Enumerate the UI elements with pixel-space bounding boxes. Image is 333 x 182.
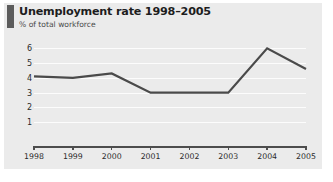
chart-figure: Unemployment rate 1998–2005 % of total w… <box>0 0 333 182</box>
chart-title: Unemployment rate 1998–2005 <box>19 5 211 18</box>
y-axis-tick-label: 4 <box>27 73 32 82</box>
x-axis-tick-label: 1999 <box>63 152 83 162</box>
series-line-unemployment-rate <box>34 48 306 92</box>
x-axis-line <box>34 146 306 148</box>
chart-header: Unemployment rate 1998–2005 % of total w… <box>0 4 318 38</box>
y-axis-tick-label: 3 <box>27 88 32 97</box>
x-axis-tick <box>266 146 267 150</box>
x-axis-tick-label: 2003 <box>218 152 238 162</box>
x-axis-tick-label: 2004 <box>257 152 277 162</box>
accent-bar <box>7 5 14 28</box>
chart-subtitle: % of total workforce <box>19 20 96 30</box>
x-axis-tick <box>33 146 34 150</box>
y-axis-labels: 123456 <box>18 41 32 137</box>
x-axis-tick-label: 2001 <box>141 152 161 162</box>
y-axis-tick-label: 1 <box>27 118 32 127</box>
y-axis-tick-label: 6 <box>27 44 32 53</box>
x-axis-tick-label: 1998 <box>24 152 44 162</box>
series-line-chart <box>34 41 306 137</box>
y-axis-tick-label: 2 <box>27 103 32 112</box>
x-axis-tick <box>111 146 112 150</box>
x-axis-tick-label: 2000 <box>102 152 122 162</box>
y-axis-tick-label: 5 <box>27 59 32 68</box>
x-axis-labels: 19981999200020012002200320042005 <box>34 152 306 164</box>
x-axis-tick <box>305 146 306 150</box>
x-axis-tick <box>189 146 190 150</box>
x-axis-tick <box>228 146 229 150</box>
x-axis-tick-label: 2005 <box>296 152 316 162</box>
x-axis-tick <box>150 146 151 150</box>
x-axis-tick <box>72 146 73 150</box>
x-axis-tick-label: 2002 <box>180 152 200 162</box>
plot-area <box>34 41 306 137</box>
